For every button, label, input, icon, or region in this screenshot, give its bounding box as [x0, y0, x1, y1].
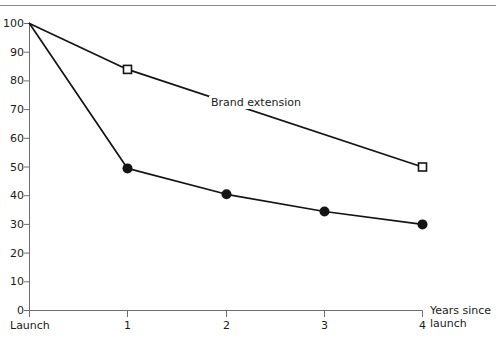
- marker-filled-circle: [222, 189, 232, 199]
- x-tick-label-launch: Launch: [10, 320, 50, 331]
- chart-plot-area: [0, 0, 496, 339]
- x-tick-label: 1: [108, 320, 148, 331]
- series-annotation-brand-extension: Brand extension: [209, 96, 303, 109]
- y-tick-label: 100: [0, 18, 24, 29]
- y-tick-label: 90: [0, 47, 24, 58]
- marker-open-square: [124, 65, 132, 73]
- y-tick-label: 50: [0, 162, 24, 173]
- marker-open-square: [419, 163, 427, 171]
- x-tick-label: 3: [305, 320, 345, 331]
- y-tick-label: 0: [0, 305, 24, 316]
- marker-filled-circle: [320, 207, 330, 217]
- marker-filled-circle: [123, 163, 133, 173]
- x-axis-caption-line1: Years since: [430, 305, 491, 318]
- y-tick-label: 20: [0, 248, 24, 259]
- y-axis-ticks: [24, 24, 29, 311]
- chart-figure: 100 90 80 70 60 50 40 30 20 10 0 Launch …: [0, 0, 496, 339]
- marker-filled-circle: [418, 219, 428, 229]
- y-tick-label: 10: [0, 276, 24, 287]
- y-tick-label: 70: [0, 104, 24, 115]
- y-tick-label: 30: [0, 219, 24, 230]
- y-tick-label: 60: [0, 133, 24, 144]
- x-tick-label: 2: [207, 320, 247, 331]
- x-axis-caption-line2: launch: [430, 318, 467, 331]
- y-tick-label: 40: [0, 190, 24, 201]
- y-tick-label: 80: [0, 75, 24, 86]
- x-axis-ticks: [30, 311, 423, 318]
